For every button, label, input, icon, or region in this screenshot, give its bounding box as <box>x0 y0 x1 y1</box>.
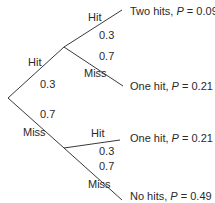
label-miss-miss: Miss <box>88 178 111 190</box>
prob-first-miss: 0.7 <box>40 108 55 120</box>
branch-first-hit <box>8 47 64 98</box>
prob-hit-hit: 0.3 <box>99 29 114 41</box>
probability-tree-diagram: Hit 0.3 0.7 Miss Hit 0.3 0.7 Miss Hit 0.… <box>0 0 215 203</box>
label-hit-miss: Miss <box>84 67 107 79</box>
outcome-one-hit-a: One hit, P = 0.21 <box>130 80 213 92</box>
label-miss-hit: Hit <box>91 127 104 139</box>
outcome-one-hit-b: One hit, P = 0.21 <box>130 132 213 144</box>
prob-hit-miss: 0.7 <box>99 50 114 62</box>
label-hit-hit: Hit <box>88 11 101 23</box>
label-first-hit: Hit <box>28 56 41 68</box>
prob-miss-miss: 0.7 <box>99 160 114 172</box>
branch-first-miss <box>8 98 64 148</box>
prob-miss-hit: 0.3 <box>99 145 114 157</box>
outcome-two-hits: Two hits, P = 0.09 <box>130 5 215 17</box>
prob-first-hit: 0.3 <box>40 78 55 90</box>
label-first-miss: Miss <box>23 126 46 138</box>
outcome-no-hits: No hits, P = 0.49 <box>130 190 212 202</box>
